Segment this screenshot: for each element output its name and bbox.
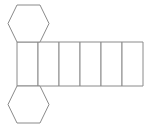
figure-canvas xyxy=(0,0,152,132)
rectangle-face-2 xyxy=(38,42,59,86)
lateral-face-strip xyxy=(17,42,143,86)
rectangle-face-5 xyxy=(101,42,122,86)
rectangle-face-3 xyxy=(59,42,80,86)
hexagonal-prism-net-diagram xyxy=(0,0,152,132)
hexagon-face-bottom xyxy=(8,86,49,123)
rectangle-face-4 xyxy=(80,42,101,86)
hexagon-face-top xyxy=(8,5,49,42)
rectangle-face-1 xyxy=(17,42,38,86)
rectangle-face-6 xyxy=(122,42,143,86)
